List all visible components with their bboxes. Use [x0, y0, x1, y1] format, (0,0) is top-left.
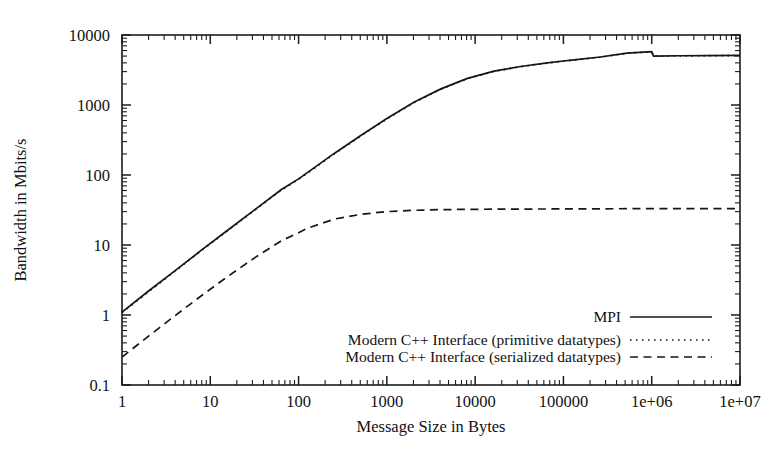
x-axis-label: Message Size in Bytes [357, 417, 506, 436]
x-tick-label: 100000 [539, 392, 589, 411]
x-tick-label: 10 [202, 392, 219, 411]
chart-figure: 1101001000100001000001e+061e+07 0.111010… [0, 0, 776, 463]
y-tick-label: 1 [102, 306, 110, 325]
y-axis-label: Bandwidth in Mbits/s [11, 138, 30, 281]
x-tick-label: 1 [118, 392, 126, 411]
x-tick-label: 1000 [370, 392, 403, 411]
bandwidth-log-log-plot: 1101001000100001000001e+061e+07 0.111010… [0, 0, 776, 463]
y-tick-label: 0.1 [89, 376, 110, 395]
x-tick-label: 100 [286, 392, 311, 411]
legend-label-0: MPI [593, 308, 621, 325]
legend-label-2: Modern C++ Interface (serialized datatyp… [345, 348, 621, 366]
y-tick-label: 10000 [69, 26, 110, 45]
y-tick-label: 1000 [77, 96, 110, 115]
x-tick-label: 1e+07 [719, 392, 760, 411]
x-tick-label: 1e+06 [631, 392, 672, 411]
x-tick-label: 10000 [455, 392, 496, 411]
legend-label-1: Modern C++ Interface (primitive datatype… [348, 331, 621, 349]
y-tick-label: 10 [94, 236, 111, 255]
y-tick-label: 100 [85, 166, 110, 185]
